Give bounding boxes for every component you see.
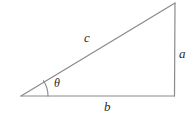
- label-adjacent-b: b: [104, 100, 111, 113]
- opposite-leg-line-a: [175, 3, 176, 96]
- angle-arc-theta: [44, 81, 49, 96]
- label-angle-theta: θ: [54, 77, 60, 89]
- right-triangle-figure: c a b θ: [0, 0, 196, 117]
- label-hypotenuse-c: c: [84, 31, 90, 44]
- label-opposite-a: a: [179, 47, 186, 60]
- triangle-drawing: [0, 0, 196, 117]
